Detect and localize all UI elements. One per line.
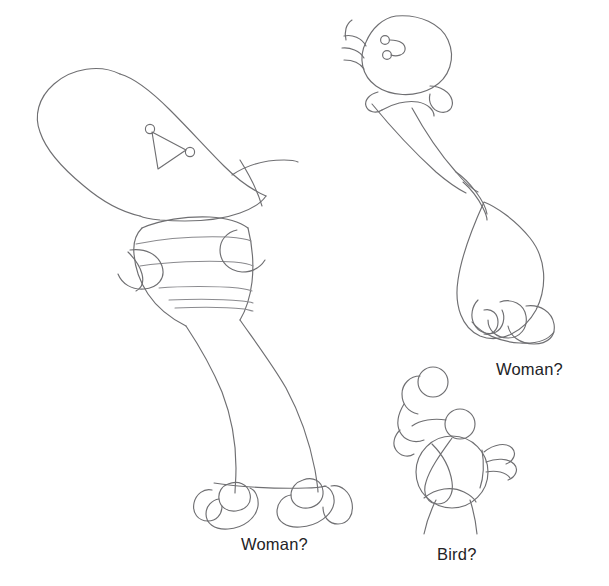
figure-bird	[394, 367, 517, 534]
woman-right-hair-stroke-4	[344, 60, 364, 69]
woman-left-stripe-3	[159, 287, 252, 292]
woman-left-bodice-top	[142, 217, 248, 228]
caption-woman-left: Woman?	[241, 535, 308, 554]
woman-left-hand-tail	[128, 252, 143, 291]
woman-right-eye-lower	[383, 51, 392, 60]
bird-neck-swirl-lower	[394, 430, 414, 456]
woman-right-eye-upper	[381, 36, 390, 45]
woman-left-right-hand-loop	[220, 230, 265, 272]
bird-upper-circle-tail	[402, 376, 420, 414]
woman-right-collar-right	[429, 86, 452, 112]
woman-right-hair-stroke-2	[344, 35, 366, 46]
woman-right-head-outline	[362, 16, 452, 95]
bird-upper-circle	[418, 367, 448, 397]
woman-right-nose	[390, 40, 405, 56]
caption-bird: Bird?	[437, 545, 477, 564]
caption-woman-right: Woman?	[496, 360, 563, 379]
bird-tail-feather-2	[486, 459, 516, 480]
sketch-artwork	[0, 0, 609, 586]
woman-left-skirt-hem	[214, 483, 326, 488]
figure-woman-left	[37, 69, 352, 530]
woman-left-stripe-4	[169, 299, 253, 303]
bird-head-connector	[412, 419, 446, 426]
woman-left-stripe-2	[140, 261, 253, 266]
woman-left-shoe-right-sole	[277, 486, 334, 527]
woman-left-shoe-left-toe	[194, 490, 222, 521]
woman-left-stripe-1	[136, 237, 251, 244]
woman-left-bodice-right	[240, 228, 253, 320]
woman-left-shoe-right-toe	[323, 486, 352, 524]
woman-right-foot-base	[472, 322, 554, 343]
figure-woman-right	[342, 16, 554, 344]
woman-right-body-teardrop	[457, 202, 544, 338]
woman-left-eye-lower-circle	[185, 147, 194, 156]
woman-left-shoe-left	[219, 482, 251, 511]
woman-left-head-outline	[37, 69, 140, 216]
woman-left-skirt-left-edge	[186, 326, 236, 493]
woman-right-neck-left	[372, 104, 466, 193]
woman-right-hair-stroke-1	[345, 20, 352, 40]
woman-left-eye-upper-circle	[145, 124, 154, 133]
woman-left-stripe-5	[175, 307, 253, 311]
woman-right-foot-left-loop	[472, 300, 504, 334]
woman-right-hair-stroke-3	[342, 48, 364, 58]
bird-leg-left	[424, 500, 436, 534]
bird-neck-swirl	[398, 404, 424, 442]
woman-left-face-triangle	[152, 132, 186, 169]
bird-leg-join	[424, 489, 476, 502]
woman-right-point-shape-inner	[463, 182, 487, 220]
bird-tail-stem	[480, 450, 483, 488]
bird-head-circle	[445, 409, 475, 439]
woman-left-skirt-right-edge	[240, 320, 318, 492]
woman-right-collar-left	[366, 92, 382, 112]
bird-leg-right	[470, 500, 477, 534]
drawing-canvas: Woman? Woman? Bird?	[0, 0, 609, 586]
bird-tail-feather-3	[486, 471, 510, 478]
woman-left-head-top	[120, 74, 266, 196]
woman-left-shoe-right	[291, 479, 323, 508]
woman-right-collar-center	[382, 101, 434, 116]
